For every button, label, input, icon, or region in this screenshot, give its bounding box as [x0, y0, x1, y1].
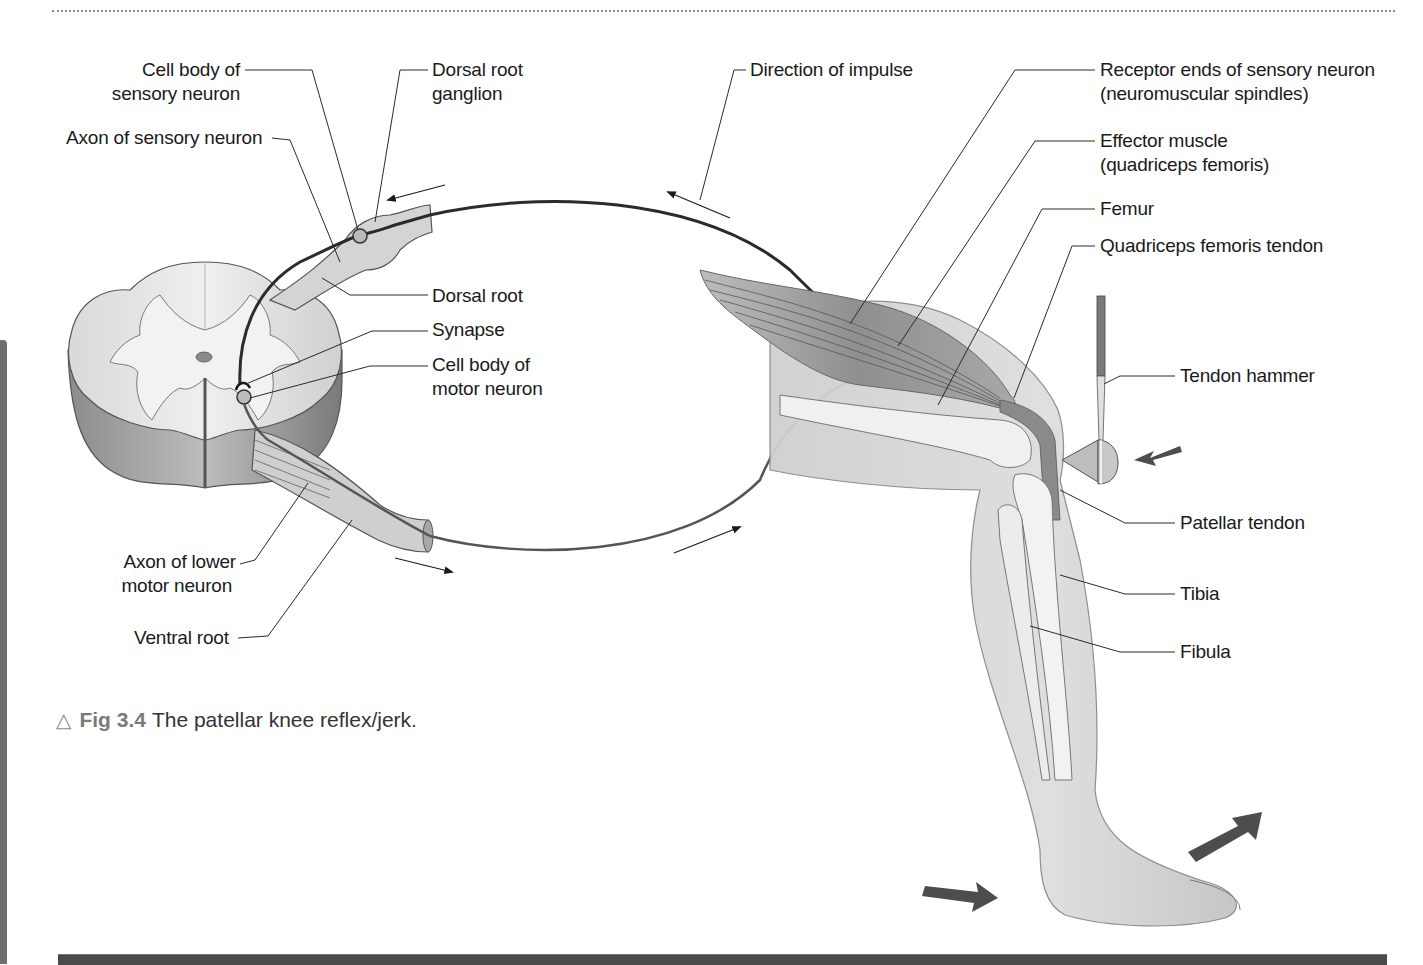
- label-line: sensory neuron: [96, 82, 240, 106]
- label-line: (quadriceps femoris): [1100, 153, 1269, 177]
- label-line: Cell body of: [432, 353, 543, 377]
- label-effector-muscle: Effector muscle (quadriceps femoris): [1100, 129, 1269, 177]
- label-patellar-tendon: Patellar tendon: [1180, 511, 1305, 535]
- triangle-outline-icon: △: [56, 709, 71, 731]
- label-cell-body-motor: Cell body of motor neuron: [432, 353, 543, 401]
- sensory-cell-body: [353, 229, 367, 243]
- label-line: Dorsal root: [432, 58, 523, 82]
- foot-kick-arrow: [1188, 812, 1262, 862]
- label-receptor-ends: Receptor ends of sensory neuron (neuromu…: [1100, 58, 1375, 106]
- label-synapse: Synapse: [432, 318, 505, 342]
- label-line: (neuromuscular spindles): [1100, 82, 1375, 106]
- label-line: motor neuron: [100, 574, 232, 598]
- tendon-hammer: [1062, 296, 1118, 484]
- figure-number: Fig 3.4: [79, 708, 146, 731]
- motor-cell-body: [237, 390, 251, 404]
- impulse-arrow-4: [674, 527, 740, 553]
- label-direction-of-impulse: Direction of impulse: [750, 58, 913, 82]
- label-line: Receptor ends of sensory neuron: [1100, 58, 1375, 82]
- label-quadriceps-tendon: Quadriceps femoris tendon: [1100, 234, 1323, 258]
- label-line: ganglion: [432, 82, 523, 106]
- label-line: Axon of lower: [100, 550, 236, 574]
- label-dorsal-root: Dorsal root: [432, 284, 523, 308]
- label-line: Cell body of: [100, 58, 240, 82]
- footer-bar: [58, 954, 1387, 965]
- label-line: motor neuron: [432, 377, 543, 401]
- label-tibia: Tibia: [1180, 582, 1219, 606]
- label-axon-sensory: Axon of sensory neuron: [66, 126, 262, 150]
- figure-caption-text: The patellar knee reflex/jerk.: [152, 708, 417, 731]
- label-femur: Femur: [1100, 197, 1154, 221]
- leg: [700, 270, 1240, 926]
- foot-push-arrow: [922, 882, 998, 912]
- label-dorsal-root-ganglion: Dorsal root ganglion: [432, 58, 523, 106]
- label-tendon-hammer: Tendon hammer: [1180, 364, 1315, 388]
- label-cell-body-sensory: Cell body of sensory neuron: [100, 58, 240, 106]
- label-axon-lower-motor: Axon of lower motor neuron: [100, 550, 236, 598]
- figure-caption: △Fig 3.4The patellar knee reflex/jerk.: [56, 708, 417, 732]
- impulse-arrow-3: [395, 558, 452, 572]
- impulse-arrow-1: [388, 185, 445, 200]
- label-line: Effector muscle: [1100, 129, 1269, 153]
- hammer-strike-arrow: [1134, 446, 1182, 466]
- impulse-arrow-2: [668, 192, 730, 218]
- label-fibula: Fibula: [1180, 640, 1231, 664]
- label-ventral-root: Ventral root: [134, 626, 229, 650]
